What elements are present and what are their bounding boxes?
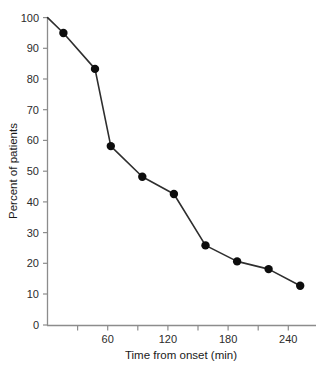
y-tick-label: 70 xyxy=(27,104,39,116)
data-point xyxy=(107,142,115,150)
chart-background xyxy=(0,0,323,367)
data-point xyxy=(233,257,241,265)
x-tick-label: 180 xyxy=(219,333,237,345)
y-tick-label: 80 xyxy=(27,73,39,85)
y-axis-title: Percent of patients xyxy=(7,123,19,219)
data-point xyxy=(201,241,209,249)
y-tick-label: 20 xyxy=(27,257,39,269)
data-point xyxy=(296,282,304,290)
y-tick-label: 30 xyxy=(27,227,39,239)
y-tick-label: 50 xyxy=(27,165,39,177)
x-axis-title: Time from onset (min) xyxy=(125,349,237,361)
x-tick-label: 120 xyxy=(159,333,177,345)
data-point xyxy=(91,65,99,73)
y-tick-label: 40 xyxy=(27,196,39,208)
data-point xyxy=(138,173,146,181)
line-chart: 100 90 80 70 60 50 40 30 20 10 0 60 120 xyxy=(0,0,323,367)
y-tick-label: 100 xyxy=(21,12,39,24)
y-tick-label: 60 xyxy=(27,134,39,146)
y-tick-label: 10 xyxy=(27,288,39,300)
data-point xyxy=(59,29,67,37)
y-tick-label: 90 xyxy=(27,42,39,54)
chart-container: 100 90 80 70 60 50 40 30 20 10 0 60 120 xyxy=(0,0,323,367)
data-point xyxy=(264,265,272,273)
data-point xyxy=(170,190,178,198)
x-tick-label: 240 xyxy=(279,333,297,345)
x-tick-label: 60 xyxy=(102,333,114,345)
y-tick-label: 0 xyxy=(33,319,39,331)
